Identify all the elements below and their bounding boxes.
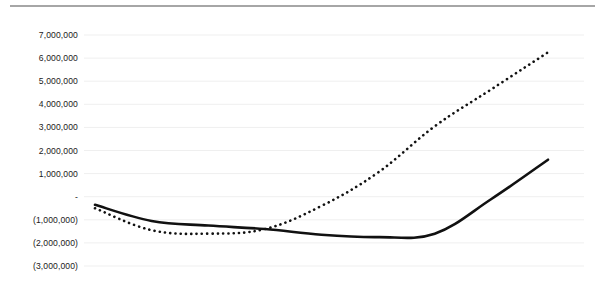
series-group — [95, 52, 548, 238]
line-chart-plot — [0, 0, 604, 285]
chart-container: 7,000,0006,000,0005,000,0004,000,0003,00… — [0, 0, 604, 285]
series-line-1 — [95, 160, 548, 238]
